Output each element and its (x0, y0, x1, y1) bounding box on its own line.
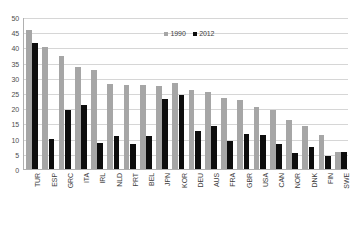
bar-2012 (195, 131, 201, 169)
bar-1990 (172, 83, 178, 169)
x-axis-tick-label: IRL (99, 173, 106, 184)
bar-1990 (335, 152, 341, 169)
bar-group (105, 18, 121, 169)
x-axis-tick-label: NLD (116, 173, 123, 187)
bar-group (170, 18, 186, 169)
x-axis-tick-label: DNK (311, 173, 318, 187)
bar-2012 (146, 136, 152, 169)
bar-group (24, 18, 40, 169)
bar-1990 (270, 110, 276, 169)
legend-swatch-icon (193, 32, 197, 36)
x-axis-tick-label: NOR (294, 173, 301, 188)
x-axis-tick-label: AUS (213, 173, 220, 187)
legend-item: 2012 (193, 30, 215, 37)
x-axis-tick-text: NLD (116, 173, 123, 187)
y-axis-tick-label: 10 (11, 136, 19, 143)
bar-1990 (319, 135, 325, 169)
bar-group (284, 18, 300, 169)
bar-2012 (292, 153, 298, 169)
x-axis-tick-text: ESP (51, 173, 58, 187)
bar-2012 (325, 156, 331, 169)
y-axis-tick-label: 35 (11, 60, 19, 67)
plot-area (23, 18, 348, 170)
bar-2012 (309, 147, 315, 169)
x-axis: TURESPGRCITAIRLNLDPRTBELJPNKORDEUAUSFRAG… (23, 171, 348, 225)
x-axis-tick-label: GBR (246, 173, 253, 188)
bar-group (252, 18, 268, 169)
x-axis-tick-text: BEL (148, 173, 155, 186)
y-axis-tick-label: 45 (11, 30, 19, 37)
x-axis-tick-label: FRA (229, 173, 236, 187)
x-axis-tick-label: FIN (327, 173, 334, 184)
x-axis-tick-text: AUS (213, 173, 220, 187)
bar-group (122, 18, 138, 169)
bar-2012 (341, 152, 347, 169)
x-axis-tick-text: USA (262, 173, 269, 187)
x-axis-tick-label: GRC (67, 173, 74, 188)
bar-group (138, 18, 154, 169)
bar-2012 (97, 143, 103, 169)
bar-1990 (124, 85, 130, 170)
x-axis-tick-text: GRC (67, 173, 74, 188)
bar-group (154, 18, 170, 169)
x-axis-tick-text: DEU (197, 173, 204, 187)
bar-1990 (286, 120, 292, 169)
bar-1990 (254, 107, 260, 169)
bar-1990 (91, 70, 97, 169)
bar-group (317, 18, 333, 169)
x-axis-tick-text: TUR (34, 173, 41, 187)
x-axis-tick-text: PRT (132, 173, 139, 187)
bar-1990 (302, 126, 308, 169)
y-axis-tick-label: 0 (15, 167, 19, 174)
y-axis: 05101520253035404550 (0, 0, 22, 225)
bar-2012 (130, 144, 136, 169)
x-axis-tick-label: CAN (278, 173, 285, 187)
y-axis-tick-label: 40 (11, 45, 19, 52)
bar-group (40, 18, 56, 169)
x-axis-tick-text: GBR (246, 173, 253, 188)
y-axis-tick-label: 20 (11, 106, 19, 113)
bar-2012 (162, 99, 168, 169)
bar-group (73, 18, 89, 169)
bar-group (219, 18, 235, 169)
x-axis-tick-label: JPN (164, 173, 171, 186)
bar-group (89, 18, 105, 169)
bar-1990 (205, 92, 211, 169)
x-axis-tick-label: PRT (132, 173, 139, 187)
y-axis-tick-label: 25 (11, 91, 19, 98)
bar-2012 (276, 144, 282, 169)
bar-2012 (32, 43, 38, 169)
x-axis-tick-label: ESP (51, 173, 58, 187)
chart-legend: 19902012 (162, 29, 216, 38)
bar-1990 (75, 67, 81, 169)
bar-2012 (49, 139, 55, 169)
bar-chart: 05101520253035404550 TURESPGRCITAIRLNLDP… (0, 0, 350, 225)
bar-group (187, 18, 203, 169)
y-axis-tick-label: 15 (11, 121, 19, 128)
bar-1990 (237, 100, 243, 169)
x-axis-tick-label: BEL (148, 173, 155, 186)
bar-1990 (221, 98, 227, 169)
bar-1990 (189, 90, 195, 169)
bar-2012 (114, 136, 120, 169)
bar-2012 (179, 95, 185, 169)
x-axis-tick-label: USA (262, 173, 269, 187)
bar-1990 (156, 86, 162, 169)
x-axis-tick-text: FRA (229, 173, 236, 187)
x-axis-tick-label: SWE (343, 173, 350, 189)
x-axis-tick-text: KOR (181, 173, 188, 188)
bar-1990 (26, 30, 32, 169)
bar-group (333, 18, 349, 169)
x-axis-tick-text: CAN (278, 173, 285, 187)
legend-label: 2012 (199, 30, 214, 37)
bar-group (268, 18, 284, 169)
legend-item: 1990 (164, 30, 186, 37)
bar-group (203, 18, 219, 169)
x-axis-tick-text: ITA (83, 173, 90, 183)
x-axis-tick-text: DNK (311, 173, 318, 187)
x-axis-tick-text: SWE (343, 173, 350, 189)
x-axis-tick-text: JPN (164, 173, 171, 186)
bar-1990 (59, 56, 65, 169)
bar-1990 (140, 85, 146, 169)
x-axis-tick-label: KOR (181, 173, 188, 188)
